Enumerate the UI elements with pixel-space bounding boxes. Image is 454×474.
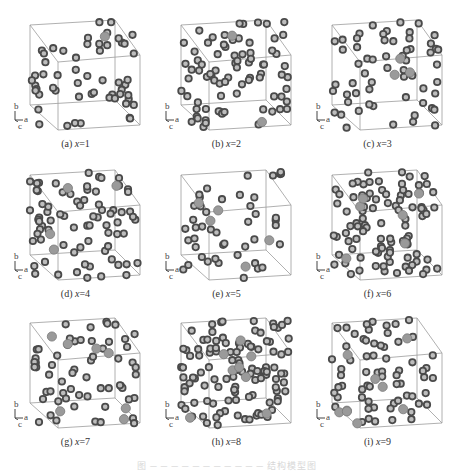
atom	[115, 262, 121, 268]
atom	[68, 386, 74, 392]
atom	[59, 378, 65, 384]
atom	[271, 93, 277, 99]
atom	[180, 374, 186, 380]
atom	[394, 381, 400, 387]
atom	[248, 343, 254, 349]
atom	[209, 321, 215, 327]
atom	[103, 222, 109, 228]
atom	[380, 31, 386, 37]
atom	[34, 180, 40, 186]
dopant-atom	[398, 210, 407, 219]
atom	[213, 229, 219, 235]
atom	[395, 398, 401, 404]
dopant-atom	[396, 54, 405, 63]
atom	[241, 275, 247, 281]
atom	[405, 255, 411, 261]
atom	[286, 335, 292, 341]
atom	[343, 230, 349, 236]
axis-a-label: a	[24, 115, 28, 124]
atom	[245, 173, 251, 179]
dopant-atom	[342, 254, 351, 263]
atom	[71, 224, 77, 230]
atom	[278, 370, 284, 376]
atom	[344, 208, 350, 214]
atom	[30, 238, 36, 244]
atom	[223, 376, 229, 382]
atom	[416, 20, 422, 26]
atom	[343, 343, 349, 349]
atom	[363, 369, 369, 375]
atom	[73, 67, 79, 73]
atom	[36, 218, 42, 224]
dopant-atom	[405, 68, 414, 77]
atom	[117, 382, 123, 388]
atom	[350, 180, 356, 186]
atom	[356, 108, 362, 114]
atom	[403, 94, 409, 100]
atom	[84, 41, 90, 47]
dopant-atom	[403, 334, 412, 343]
atom	[77, 244, 83, 250]
dopant-atom	[236, 336, 245, 345]
atom	[432, 90, 438, 96]
atom	[343, 125, 349, 131]
dopant-atom	[353, 419, 362, 428]
atom	[193, 106, 199, 112]
atom	[205, 258, 211, 264]
atom	[205, 40, 211, 46]
atom	[347, 223, 353, 229]
atom	[72, 120, 78, 126]
atom	[282, 63, 288, 69]
atom	[381, 37, 387, 43]
atom	[404, 47, 410, 53]
atom	[133, 371, 139, 377]
atom	[125, 92, 131, 98]
atom	[397, 19, 403, 25]
axis-a-label: a	[175, 413, 179, 422]
panel-caption-a: (a) x=1	[0, 138, 151, 149]
atom	[83, 374, 89, 380]
atom	[239, 51, 245, 57]
atom	[399, 181, 405, 187]
atom	[73, 55, 79, 61]
atom	[222, 79, 228, 85]
atom	[383, 191, 389, 197]
atom	[416, 182, 422, 188]
atom	[360, 228, 366, 234]
atom	[434, 61, 440, 67]
atom	[185, 262, 191, 268]
atom	[359, 394, 365, 400]
atom	[115, 355, 121, 361]
atom	[357, 255, 363, 261]
structure-panel-g: bac(g) x=7	[0, 298, 151, 448]
atom	[277, 241, 283, 247]
panel-value: =1	[79, 138, 90, 149]
atom	[336, 191, 342, 197]
atom	[397, 197, 403, 203]
atom	[84, 275, 90, 281]
atom	[275, 398, 281, 404]
dopant-atom	[358, 194, 367, 203]
atom	[354, 44, 360, 50]
atom	[387, 405, 393, 411]
atom	[416, 401, 422, 407]
atom	[54, 72, 60, 78]
panel-value: =9	[380, 436, 391, 447]
atom	[96, 19, 102, 25]
atom	[121, 41, 127, 47]
atom	[234, 64, 240, 70]
atom	[199, 254, 205, 260]
atom	[366, 86, 372, 92]
atom	[196, 27, 202, 33]
atom	[181, 40, 187, 46]
atom	[395, 339, 401, 345]
panel-letter: (a)	[61, 138, 75, 149]
atom	[430, 189, 436, 195]
atom	[53, 417, 59, 423]
atom	[225, 397, 231, 403]
atom	[125, 189, 131, 195]
atom	[257, 74, 263, 80]
atom	[27, 178, 33, 184]
panel-value: =7	[79, 436, 90, 447]
atom	[203, 106, 209, 112]
